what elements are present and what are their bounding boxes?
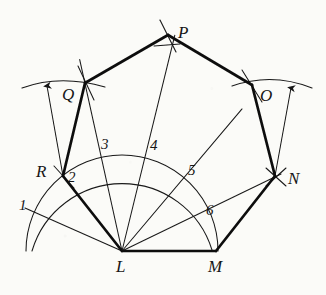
construction-arc-from-m bbox=[32, 184, 212, 251]
polygon-side-op bbox=[168, 35, 252, 85]
polygon-side-pq bbox=[85, 35, 168, 83]
polygon-side-mn bbox=[216, 176, 275, 251]
division-label-5: 5 bbox=[188, 163, 196, 178]
vertex-label-n: N bbox=[288, 170, 299, 187]
division-label-4: 4 bbox=[150, 138, 158, 153]
vertex-label-q: Q bbox=[62, 86, 74, 103]
vertex-label-o: O bbox=[260, 87, 272, 104]
vertex-label-m: M bbox=[208, 258, 222, 275]
fan-ray-1 bbox=[25, 208, 122, 251]
division-label-3: 3 bbox=[101, 137, 109, 152]
division-label-2: 2 bbox=[68, 170, 76, 185]
figure-canvas: L M N O P Q R 1 2 3 4 5 6 bbox=[0, 0, 326, 295]
intersection-tick-p-2 bbox=[154, 44, 180, 46]
vertex-label-r: R bbox=[36, 163, 46, 180]
construction-drawing bbox=[0, 0, 326, 295]
radius-arrow-left bbox=[47, 86, 63, 176]
division-label-6: 6 bbox=[206, 203, 214, 218]
vertex-label-l: L bbox=[116, 258, 125, 275]
vertex-label-p: P bbox=[178, 24, 188, 41]
heptagon-outline bbox=[63, 35, 275, 251]
fan-ray-4 bbox=[122, 35, 175, 251]
radius-arrow-right bbox=[275, 88, 291, 176]
division-label-1: 1 bbox=[19, 198, 27, 213]
fan-ray-6 bbox=[122, 174, 281, 251]
polygon-side-rl bbox=[63, 176, 122, 251]
fan-ray-5 bbox=[122, 109, 242, 251]
